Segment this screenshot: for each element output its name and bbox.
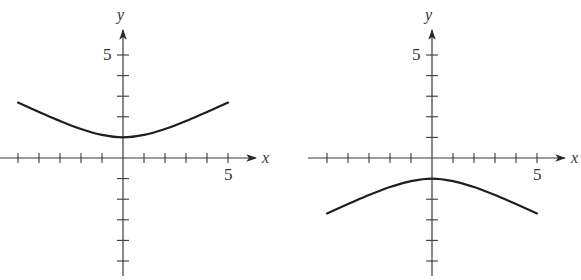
y-axis-label: y [115, 6, 125, 24]
y-axis-label: y [423, 6, 433, 24]
y-tick-label-5: 5 [412, 45, 421, 64]
chart-canvas: x y 5 5 x y 5 5 [0, 0, 581, 280]
x-axis-label: x [261, 149, 269, 166]
x-tick-label-5: 5 [533, 165, 542, 184]
graph-right: x y 5 5 [308, 6, 578, 276]
graph-left: x y 5 5 [0, 6, 269, 276]
y-tick-label-5: 5 [103, 45, 112, 64]
x-axis-label: x [570, 149, 578, 166]
x-tick-label-5: 5 [224, 165, 233, 184]
